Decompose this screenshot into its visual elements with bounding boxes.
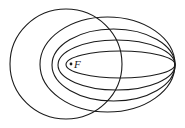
focus-label: F (73, 58, 81, 70)
orbit-diagram: F (0, 0, 185, 128)
ellipse-2 (40, 17, 175, 112)
focus-point (70, 63, 73, 66)
ellipse-5 (66, 51, 175, 78)
